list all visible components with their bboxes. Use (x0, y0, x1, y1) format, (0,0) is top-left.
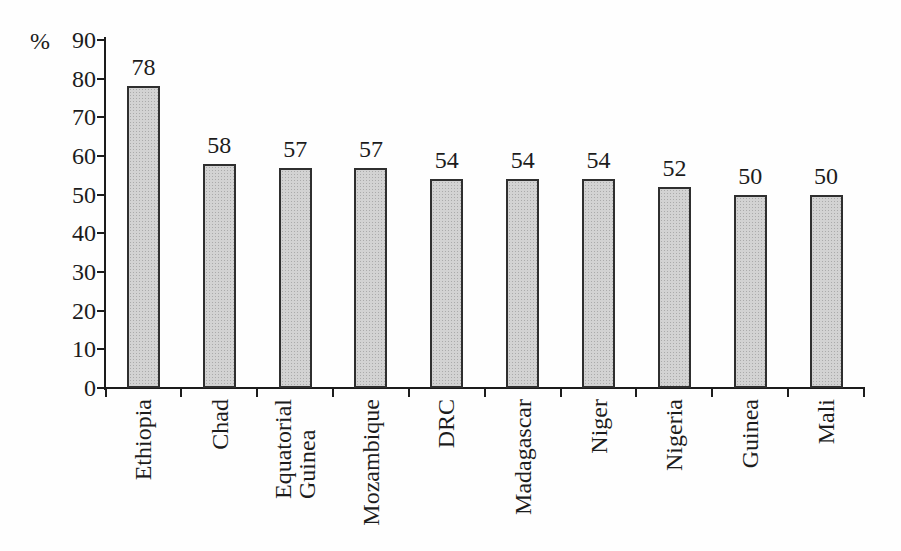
y-tick (97, 232, 105, 234)
x-category-label: DRC (435, 399, 459, 448)
y-tick (97, 155, 105, 157)
x-category-label: Mali (814, 399, 838, 444)
x-category-label: Chad (207, 399, 231, 450)
bar-value-label: 54 (491, 148, 555, 173)
y-tick-label: 20 (34, 298, 96, 324)
y-tick (97, 271, 105, 273)
y-tick (97, 310, 105, 312)
bar (279, 168, 312, 388)
y-tick-label: 60 (34, 143, 96, 169)
bar-value-label: 50 (794, 164, 858, 189)
bar (582, 179, 615, 388)
y-tick-label: 30 (34, 259, 96, 285)
y-axis-line (104, 37, 106, 390)
bar (810, 195, 843, 388)
bar-value-label: 50 (718, 164, 782, 189)
x-tick (332, 389, 334, 397)
x-category-label: Nigeria (662, 399, 686, 471)
y-tick (97, 194, 105, 196)
bar-value-label: 58 (187, 133, 251, 158)
bar (430, 179, 463, 388)
y-tick (97, 39, 105, 41)
x-category-label: Mozambique (359, 399, 383, 526)
bar (734, 195, 767, 388)
x-tick (711, 389, 713, 397)
y-tick (97, 116, 105, 118)
x-category-label: Niger (587, 399, 611, 454)
x-tick (105, 389, 107, 397)
bar (127, 86, 160, 388)
bar (506, 179, 539, 388)
x-tick (484, 389, 486, 397)
y-tick-label: 10 (34, 336, 96, 362)
bar-value-label: 57 (339, 137, 403, 162)
x-tick (180, 389, 182, 397)
x-category-label: Ethiopia (131, 399, 155, 480)
x-tick (863, 389, 865, 397)
x-category-label: Equatorial Guinea (271, 399, 319, 499)
y-tick-label: 0 (34, 375, 96, 401)
y-tick-label: 90 (34, 27, 96, 53)
y-tick-label: 40 (34, 220, 96, 246)
x-tick (256, 389, 258, 397)
bar-chart-plot-area: 010203040506070809078Ethiopia58Chad57Equ… (0, 0, 901, 551)
bar-value-label: 78 (111, 55, 175, 80)
x-tick (560, 389, 562, 397)
x-category-label: Madagascar (511, 399, 535, 515)
bar (658, 187, 691, 388)
y-tick (97, 78, 105, 80)
y-tick (97, 348, 105, 350)
x-tick (635, 389, 637, 397)
y-tick-label: 80 (34, 66, 96, 92)
x-tick (408, 389, 410, 397)
y-tick-label: 70 (34, 104, 96, 130)
scanned-bar-chart-figure: % 010203040506070809078Ethiopia58Chad57E… (0, 0, 901, 551)
x-category-label: Guinea (738, 399, 762, 468)
bar-value-label: 54 (567, 148, 631, 173)
bar-value-label: 52 (642, 156, 706, 181)
bar (354, 168, 387, 388)
x-tick (787, 389, 789, 397)
bar (203, 164, 236, 388)
bar-value-label: 54 (415, 148, 479, 173)
y-tick-label: 50 (34, 182, 96, 208)
bar-value-label: 57 (263, 137, 327, 162)
